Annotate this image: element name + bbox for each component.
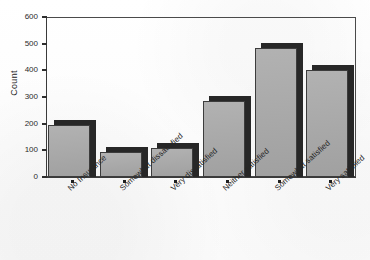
y-tick-label-500: 500 <box>8 40 38 48</box>
y-tick-500 <box>42 43 47 45</box>
bar-chart: Count 0100200300400500600 No InsuranceSo… <box>0 0 370 260</box>
x-axis-line <box>46 177 356 178</box>
y-axis-title: Count <box>9 53 19 113</box>
y-tick-label-200: 200 <box>8 120 38 128</box>
y-tick-600 <box>42 16 47 18</box>
y-tick-label-300: 300 <box>8 93 38 101</box>
y-tick-label-400: 400 <box>8 66 38 74</box>
y-tick-400 <box>42 69 47 71</box>
bar-front-face <box>203 101 245 177</box>
y-tick-0 <box>42 176 47 178</box>
y-tick-label-600: 600 <box>8 13 38 21</box>
y-tick-100 <box>42 149 47 151</box>
y-tick-label-0: 0 <box>8 173 38 181</box>
y-tick-200 <box>42 123 47 125</box>
y-tick-300 <box>42 96 47 98</box>
y-tick-label-100: 100 <box>8 146 38 154</box>
